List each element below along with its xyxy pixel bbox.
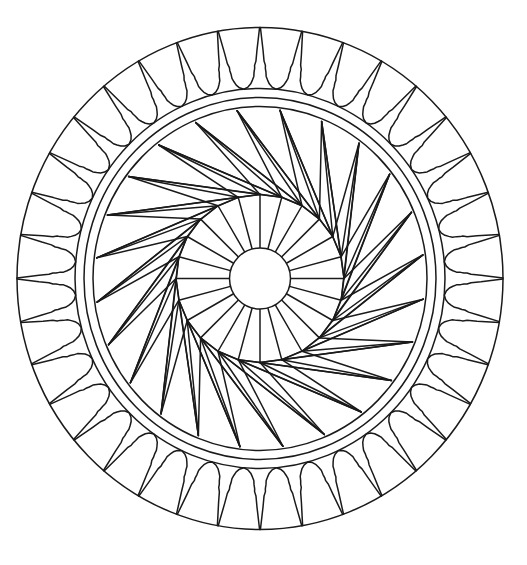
spiral-line (341, 255, 423, 300)
spoke (201, 219, 239, 257)
spiral-edge (341, 257, 344, 279)
spoke (218, 206, 245, 252)
tulip-petal (333, 450, 381, 514)
spiral-line (322, 121, 333, 236)
tulip-petal (411, 384, 471, 439)
tulip-petal (74, 411, 131, 471)
spiral-line (187, 321, 198, 436)
spoke (238, 308, 252, 360)
tulip-petal (139, 43, 187, 107)
tulip-petal (17, 235, 76, 278)
spoke (289, 257, 341, 271)
spoke (201, 300, 239, 338)
tulip-petal (17, 279, 76, 322)
tulip-petal (218, 468, 259, 530)
mandala-drawing (0, 0, 527, 565)
tulip-petal (139, 450, 187, 514)
tulip-petal (333, 43, 381, 107)
spiral-line (97, 257, 179, 302)
center-circle (230, 248, 291, 309)
spiral-edge (176, 279, 179, 301)
tulip-petal (50, 118, 110, 173)
spiral-line (238, 360, 324, 435)
spoke (187, 237, 233, 264)
spoke (275, 305, 302, 351)
mandala-canvas: Black-and-white mandala line drawing (co… (0, 0, 527, 565)
tulip-petal (389, 87, 446, 147)
tulip-petal (260, 28, 301, 90)
spoke (275, 206, 302, 252)
spoke (268, 197, 282, 249)
spoke (282, 219, 320, 257)
tulip-petal (104, 61, 157, 124)
tulip-petal (427, 354, 488, 404)
spiral-edge (260, 360, 282, 363)
spoke (289, 286, 341, 300)
tulip-petal (50, 384, 110, 439)
spiral-edge (238, 195, 260, 198)
spiral-line (196, 123, 282, 198)
tulip-petal (218, 28, 259, 90)
inner-circle (230, 248, 291, 309)
tulip-petal (427, 153, 488, 203)
tulip-petal (32, 354, 93, 404)
spoke (179, 286, 231, 300)
tulip-petal (260, 468, 301, 530)
spoke (179, 257, 231, 271)
tulip-petal (32, 153, 93, 203)
spoke (286, 294, 332, 321)
spoke (268, 308, 282, 360)
tulip-petal (104, 433, 157, 496)
tulip-petal (363, 61, 416, 124)
spoke (286, 237, 332, 264)
tulip-petal (389, 411, 446, 471)
spoke (218, 305, 245, 351)
tulip-petal (74, 87, 131, 147)
tulip-petal (411, 118, 471, 173)
spoke (238, 197, 252, 249)
tulip-petal (363, 433, 416, 496)
spoke (187, 294, 233, 321)
spoke (282, 300, 320, 338)
tulip-petal (444, 235, 503, 278)
tulip-petal (444, 279, 503, 322)
